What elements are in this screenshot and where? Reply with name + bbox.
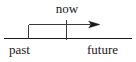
- arrow-head: [89, 21, 101, 28]
- label-past: past: [9, 43, 30, 56]
- timeline-diagram: now past future: [0, 0, 136, 62]
- label-future: future: [87, 43, 118, 56]
- label-now: now: [0, 2, 136, 15]
